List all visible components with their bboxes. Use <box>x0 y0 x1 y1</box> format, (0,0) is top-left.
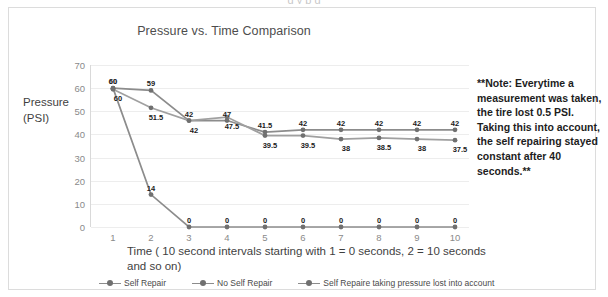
x-tick-label: 7 <box>338 232 343 243</box>
data-point-marker <box>187 225 192 230</box>
data-point-marker <box>339 127 344 132</box>
x-tick-label: 10 <box>450 232 461 243</box>
series-line <box>113 88 455 132</box>
data-point-label: 60 <box>109 77 117 86</box>
data-point-label: 0 <box>415 216 419 225</box>
chart-frame: Pressure vs. Time Comparison Pressure (P… <box>8 7 596 290</box>
data-point-label: 42 <box>299 118 307 127</box>
legend-item[interactable]: Self Repaire taking pressure lost into a… <box>298 278 494 288</box>
x-tick-label: 2 <box>148 232 153 243</box>
data-point-label: 51.5 <box>149 112 164 121</box>
x-tick-label: 1 <box>110 232 115 243</box>
y-tick-label: 20 <box>74 175 85 186</box>
data-point-label: 38.5 <box>377 142 392 151</box>
y-tick-label: 50 <box>74 106 85 117</box>
legend-label: Self Repair <box>124 278 166 288</box>
data-point-label: 41.5 <box>258 121 273 130</box>
data-point-label: 0 <box>453 216 457 225</box>
data-point-label: 60 <box>114 94 122 103</box>
legend-item[interactable]: No Self Repair <box>192 278 272 288</box>
x-tick-label: 8 <box>376 232 381 243</box>
data-point-label: 38 <box>342 144 350 153</box>
data-point-label: 0 <box>263 216 267 225</box>
legend-label: Self Repaire taking pressure lost into a… <box>323 278 494 288</box>
data-point-label: 39.5 <box>301 140 316 149</box>
chart-annotation-note: **Note: Everytime a measurement was take… <box>477 76 605 178</box>
x-tick-label: 6 <box>300 232 305 243</box>
data-point-label: 47.5 <box>225 122 240 131</box>
data-point-label: 0 <box>377 216 381 225</box>
data-point-label: 38 <box>418 144 426 153</box>
data-point-label: 42 <box>451 118 459 127</box>
x-tick-label: 5 <box>262 232 267 243</box>
data-point-marker <box>415 137 420 142</box>
data-point-marker <box>187 118 192 123</box>
legend-marker-icon <box>298 280 320 287</box>
legend-marker-icon <box>99 280 121 287</box>
data-point-label: 0 <box>301 216 305 225</box>
data-point-marker <box>301 127 306 132</box>
y-tick-label: 70 <box>74 60 85 71</box>
data-point-marker <box>453 225 458 230</box>
data-point-marker <box>263 225 268 230</box>
plot-area: 010203040506070 12345678910 6059424741.5… <box>91 65 469 227</box>
data-point-marker <box>377 127 382 132</box>
data-point-label: 0 <box>225 216 229 225</box>
data-point-label: 39.5 <box>263 140 278 149</box>
legend-marker-icon <box>192 280 214 287</box>
data-point-label: 59 <box>147 79 155 88</box>
data-point-marker <box>377 225 382 230</box>
top-cutoff-text: g y p g <box>0 0 608 4</box>
data-point-label: 42 <box>185 109 193 118</box>
data-point-marker <box>301 133 306 138</box>
series-line <box>113 88 455 227</box>
x-tick-label: 3 <box>186 232 191 243</box>
data-point-marker <box>377 136 382 141</box>
data-point-marker <box>415 127 420 132</box>
data-point-marker <box>453 127 458 132</box>
data-point-label: 42 <box>413 118 421 127</box>
data-point-label: 42 <box>337 118 345 127</box>
data-point-marker <box>453 138 458 143</box>
data-point-marker <box>415 225 420 230</box>
data-point-label: 14 <box>147 183 155 192</box>
data-point-label: 42 <box>190 125 198 134</box>
data-point-marker <box>149 88 154 93</box>
data-point-marker <box>339 137 344 142</box>
data-point-marker <box>149 105 154 110</box>
series-line <box>113 89 455 140</box>
data-point-label: 37.5 <box>453 145 468 154</box>
x-tick-label: 4 <box>224 232 229 243</box>
legend-item[interactable]: Self Repair <box>99 278 166 288</box>
data-point-label: 0 <box>187 216 191 225</box>
data-point-label: 42 <box>375 118 383 127</box>
data-point-marker <box>149 192 154 197</box>
y-tick-label: 0 <box>80 222 85 233</box>
data-point-marker <box>263 133 268 138</box>
x-axis-title: Time ( 10 second intervals starting with… <box>127 244 487 274</box>
data-point-marker <box>225 225 230 230</box>
data-point-label: 0 <box>339 216 343 225</box>
y-tick-label: 10 <box>74 198 85 209</box>
series-lines <box>91 65 469 227</box>
chart-title: Pressure vs. Time Comparison <box>9 24 439 38</box>
y-tick-label: 40 <box>74 129 85 140</box>
data-point-marker <box>339 225 344 230</box>
y-tick-label: 30 <box>74 152 85 163</box>
data-point-marker <box>301 225 306 230</box>
data-point-label: 47 <box>223 109 231 118</box>
y-tick-label: 60 <box>74 83 85 94</box>
x-tick-label: 9 <box>414 232 419 243</box>
legend-label: No Self Repair <box>217 278 272 288</box>
chart-legend: Self RepairNo Self RepairSelf Repaire ta… <box>99 278 494 288</box>
data-point-marker <box>111 87 116 92</box>
